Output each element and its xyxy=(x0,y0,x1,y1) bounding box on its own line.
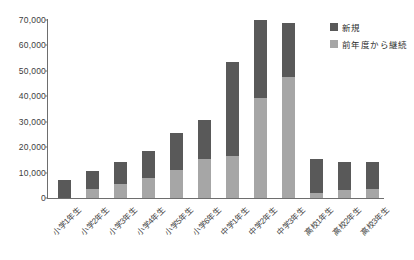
x-category-label: 小学1年生 xyxy=(49,204,82,237)
bar-group xyxy=(198,120,211,198)
bar-segment-continued xyxy=(282,77,295,198)
bar-segment-continued xyxy=(254,98,267,198)
stacked-bar-chart: 010,00020,00030,00040,00050,00060,00070,… xyxy=(0,0,414,260)
bar-group xyxy=(310,159,323,198)
bar-segment-new xyxy=(58,180,71,198)
chart-legend: 新規前年度から継続 xyxy=(330,21,414,55)
y-tick-label: 30,000 xyxy=(2,117,46,127)
x-category-label: 小学2年生 xyxy=(77,204,110,237)
bar-segment-continued xyxy=(366,189,379,198)
x-category-label: 高校1年生 xyxy=(301,204,334,237)
x-axis-category-labels: 小学1年生小学2年生小学3年生小学4年生小学5年生小学6年生中学1年生中学2年生… xyxy=(48,200,384,260)
y-tick-label: 40,000 xyxy=(2,91,46,101)
bar-group xyxy=(86,171,99,198)
x-axis-line xyxy=(48,198,384,199)
bar-segment-new xyxy=(338,162,351,190)
x-category-label: 小学6年生 xyxy=(189,204,222,237)
x-category-label: 中学2年生 xyxy=(245,204,278,237)
bar-segment-continued xyxy=(198,159,211,198)
bar-group xyxy=(366,162,379,198)
x-category-label: 小学5年生 xyxy=(161,204,194,237)
legend-label: 前年度から継続 xyxy=(342,38,408,50)
bar-group xyxy=(226,62,239,198)
bar-segment-continued xyxy=(142,178,155,198)
bar-segment-new xyxy=(310,159,323,193)
x-category-label: 中学3年生 xyxy=(273,204,306,237)
bar-segment-continued xyxy=(170,170,183,198)
bar-group xyxy=(282,23,295,198)
bar-segment-new xyxy=(170,133,183,170)
bar-segment-continued xyxy=(86,189,99,198)
y-tick-label: 50,000 xyxy=(2,66,46,76)
bar-segment-new xyxy=(254,20,267,98)
legend-swatch-icon xyxy=(330,40,338,48)
bar-segment-continued xyxy=(310,193,323,198)
bar-group xyxy=(114,162,127,198)
bar-segment-new xyxy=(114,162,127,184)
legend-label: 新規 xyxy=(342,21,361,33)
bar-group xyxy=(170,133,183,198)
bar-group xyxy=(58,180,71,198)
y-tick-label: 0 xyxy=(2,193,46,203)
bar-segment-continued xyxy=(114,184,127,198)
x-category-label: 小学4年生 xyxy=(133,204,166,237)
y-tick-label: 20,000 xyxy=(2,142,46,152)
legend-swatch-icon xyxy=(330,23,338,31)
x-category-label: 中学1年生 xyxy=(217,204,250,237)
y-axis-tick-labels: 010,00020,00030,00040,00050,00060,00070,… xyxy=(0,0,46,260)
bar-segment-new xyxy=(282,23,295,78)
legend-item: 前年度から継続 xyxy=(330,38,414,49)
bar-segment-continued xyxy=(338,190,351,198)
y-tick-label: 10,000 xyxy=(2,168,46,178)
y-tick-label: 60,000 xyxy=(2,40,46,50)
x-category-label: 高校3年生 xyxy=(357,204,390,237)
bar-segment-new xyxy=(226,62,239,156)
bar-segment-continued xyxy=(226,156,239,198)
legend-item: 新規 xyxy=(330,21,414,32)
y-tick-label: 70,000 xyxy=(2,15,46,25)
bar-segment-new xyxy=(198,120,211,158)
bar-group xyxy=(254,20,267,199)
bar-group xyxy=(142,151,155,198)
bar-segment-new xyxy=(142,151,155,178)
bar-group xyxy=(338,162,351,198)
bar-segment-new xyxy=(366,162,379,189)
bar-segment-new xyxy=(86,171,99,189)
x-category-label: 小学3年生 xyxy=(105,204,138,237)
x-category-label: 高校2年生 xyxy=(329,204,362,237)
